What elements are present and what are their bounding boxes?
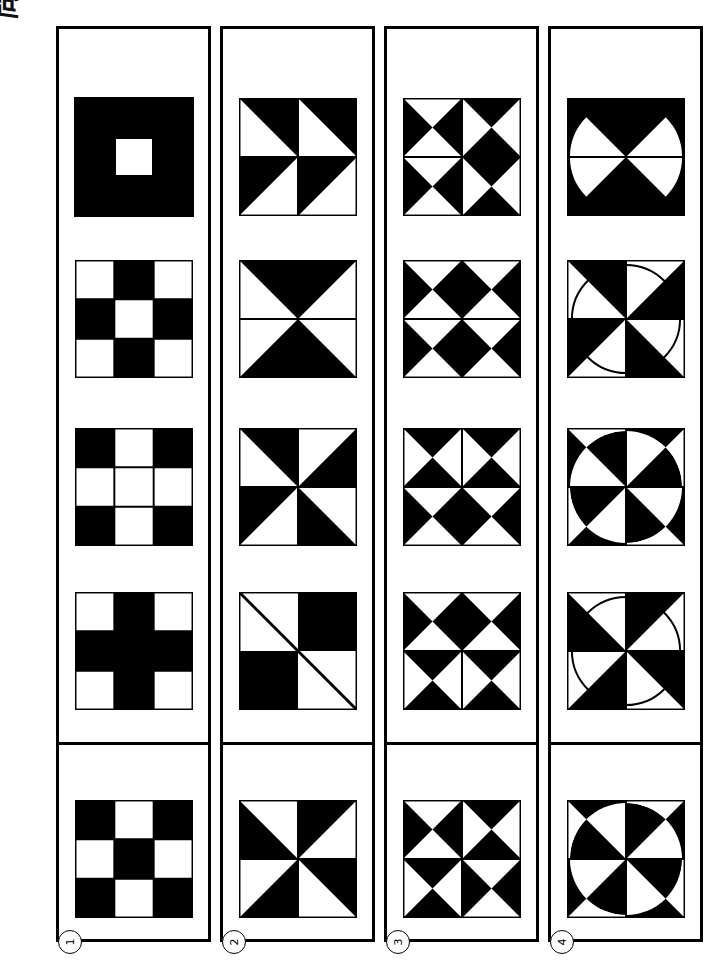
figure-bowties-vhvh (403, 98, 521, 216)
figure-checker2-diag (239, 592, 357, 710)
cell-c2r4 (223, 571, 372, 731)
cell-c4r1 (551, 77, 700, 237)
figure-circle-pinwheel-outline (567, 260, 685, 378)
option-numbers: 1 2 3 4 (56, 930, 712, 966)
option-column-1[interactable] (56, 26, 211, 942)
answer-separator (387, 742, 536, 745)
cell-c4r4 (551, 571, 700, 731)
option-number-1-label: 1 (64, 939, 77, 946)
option-number-2-label: 2 (228, 939, 241, 946)
option-number-3-label: 3 (392, 939, 405, 946)
option-number-2[interactable]: 2 (222, 930, 246, 954)
options-grid (56, 26, 712, 942)
option-number-1[interactable]: 1 (58, 930, 82, 954)
figure-circle-pinwheel-outline-b (567, 592, 685, 710)
figure-bowties-hvvh (403, 800, 521, 918)
figure-checker-white-corners (75, 260, 193, 378)
cell-c1r3 (59, 407, 208, 567)
figure-bowties-hhvv (403, 428, 521, 546)
figure-bowties-vvhh (403, 592, 521, 710)
page-title: 問題 8 (0, 0, 24, 18)
figure-circle-pinwheel-invert-a (567, 428, 685, 546)
option-column-2[interactable] (220, 26, 375, 942)
cell-c4-answer (551, 774, 700, 944)
option-column-4[interactable] (548, 26, 703, 942)
figure-donut (74, 97, 194, 217)
cell-c1r2 (59, 239, 208, 399)
figure-plus-white (75, 428, 193, 546)
cell-c2r3 (223, 407, 372, 567)
cell-c3r1 (387, 77, 536, 237)
figure-bowties-hhhh (403, 260, 521, 378)
cell-c2r1 (223, 77, 372, 237)
cell-c4r2 (551, 239, 700, 399)
answer-separator (59, 742, 208, 745)
page-title-text: 問題 8 (0, 0, 26, 21)
option-number-3[interactable]: 3 (386, 930, 410, 954)
figure-circle-bowtie (567, 98, 685, 216)
option-number-4-label: 4 (556, 939, 569, 946)
figure-pinwheel-b (239, 800, 357, 918)
cell-c2r2 (223, 239, 372, 399)
option-column-3[interactable] (384, 26, 539, 942)
cell-c1-answer (59, 774, 208, 944)
cell-c3r2 (387, 239, 536, 399)
figure-bowtie-vertical (239, 260, 357, 378)
answer-separator (551, 742, 700, 745)
cell-c2-answer (223, 774, 372, 944)
cell-c3r4 (387, 571, 536, 731)
cell-c4r3 (551, 407, 700, 567)
cell-c1r1 (59, 77, 208, 237)
problem-page: 問題 8 (0, 0, 716, 972)
answer-separator (223, 742, 372, 745)
figure-checker-black-corners (75, 800, 193, 918)
cell-c3-answer (387, 774, 536, 944)
figure-quad-diag-a (239, 98, 357, 216)
figure-circle-pinwheel-invert-b (567, 800, 685, 918)
figure-plus-black (75, 592, 193, 710)
cell-c3r3 (387, 407, 536, 567)
cell-c1r4 (59, 571, 208, 731)
option-number-4[interactable]: 4 (550, 930, 574, 954)
figure-pinwheel-a (239, 428, 357, 546)
